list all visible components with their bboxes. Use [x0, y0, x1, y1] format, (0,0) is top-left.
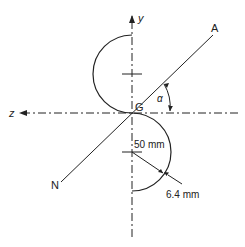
thickness-label: 6.4 mm [166, 189, 199, 200]
angle-label: α [157, 93, 163, 104]
thickness-dimension-line [168, 175, 182, 184]
radius-label: 50 mm [134, 139, 165, 150]
y-axis-label: y [137, 12, 145, 24]
angle-alpha-arc [164, 84, 170, 111]
z-axis-label: z [8, 107, 15, 119]
label-n: N [51, 179, 59, 191]
radius-dimension-line [132, 152, 163, 173]
diagram-canvas: y z A N G α 50 mm 6.4 mm [0, 0, 245, 247]
centroid-label: G [135, 101, 144, 113]
label-a: A [211, 22, 219, 34]
